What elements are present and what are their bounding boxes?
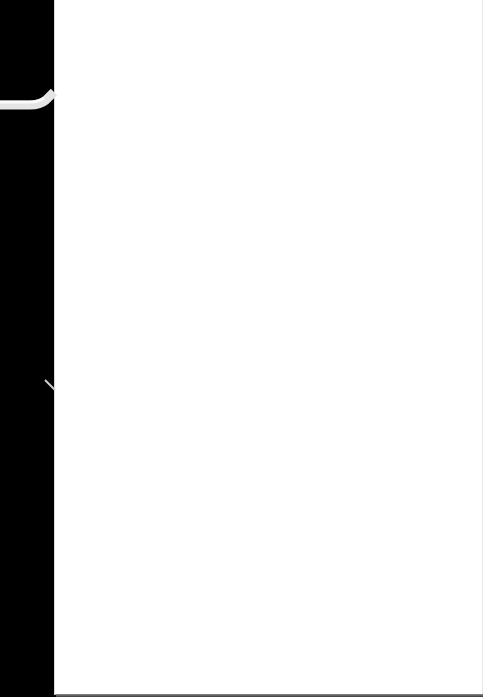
scratch-mark bbox=[45, 380, 55, 390]
cable-icon bbox=[0, 0, 483, 697]
